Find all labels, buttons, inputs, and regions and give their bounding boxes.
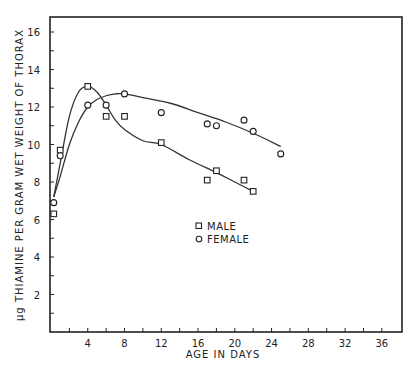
x-tick-label: 4 xyxy=(85,338,91,349)
x-tick-label: 20 xyxy=(228,338,241,349)
male-data-point xyxy=(204,177,210,183)
y-tick-label: 8 xyxy=(34,177,40,188)
male-data-point xyxy=(241,177,247,183)
male-data-point xyxy=(103,114,109,120)
female-data-point xyxy=(241,117,247,123)
female-data-point xyxy=(57,153,63,159)
legend-label: FEMALE xyxy=(207,234,249,245)
legend: MALEFEMALE xyxy=(196,221,249,245)
plot-frame xyxy=(50,17,402,332)
y-axis-label: µg THIAMINE PER GRAM WET WEIGHT OF THORA… xyxy=(14,29,25,321)
y-tick-label: 4 xyxy=(34,252,40,263)
y-tick-label: 14 xyxy=(27,65,40,76)
y-tick-label: 2 xyxy=(34,290,40,301)
x-axis-label: AGE IN DAYS xyxy=(186,349,261,360)
legend-label: MALE xyxy=(207,221,236,232)
female-data-point xyxy=(51,200,57,206)
male-data-point xyxy=(214,168,220,174)
y-tick-label: 12 xyxy=(27,102,40,113)
male-data-point xyxy=(250,189,256,195)
male-curve xyxy=(54,86,253,197)
female-data-point xyxy=(85,102,91,108)
x-axis-ticks: 4812162024283236 xyxy=(69,328,388,349)
chart: 4812162024283236 246810121416 MALEFEMALE… xyxy=(0,0,417,373)
y-tick-label: 16 xyxy=(27,27,40,38)
x-tick-label: 32 xyxy=(339,338,352,349)
plot-border xyxy=(50,17,402,332)
female-data-point xyxy=(158,110,164,116)
x-tick-label: 24 xyxy=(265,338,278,349)
legend-square-icon xyxy=(196,223,202,229)
female-data-point xyxy=(213,123,219,129)
male-data-point xyxy=(57,147,63,153)
x-tick-label: 12 xyxy=(155,338,168,349)
x-tick-label: 28 xyxy=(302,338,315,349)
x-tick-label: 36 xyxy=(375,338,388,349)
x-tick-label: 8 xyxy=(121,338,127,349)
data-points xyxy=(51,84,284,217)
male-data-point xyxy=(122,114,128,120)
female-data-point xyxy=(122,91,128,97)
female-data-point xyxy=(103,102,109,108)
female-data-point xyxy=(250,128,256,134)
x-tick-label: 16 xyxy=(192,338,205,349)
y-tick-label: 10 xyxy=(27,140,40,151)
legend-circle-icon xyxy=(196,236,202,242)
male-data-point xyxy=(158,140,164,146)
female-data-point xyxy=(278,151,284,157)
male-data-point xyxy=(51,211,57,217)
y-tick-label: 6 xyxy=(34,215,40,226)
male-data-point xyxy=(85,84,91,90)
female-data-point xyxy=(204,121,210,127)
